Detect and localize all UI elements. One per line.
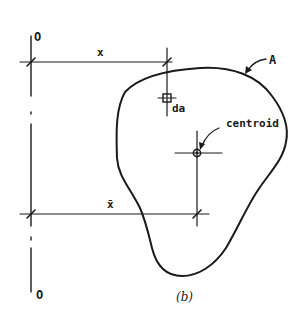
centroid-label: centroid bbox=[226, 117, 279, 130]
area-leader-arrow bbox=[248, 59, 266, 70]
area-outline bbox=[117, 68, 287, 276]
arrowhead-icon bbox=[199, 142, 205, 150]
element-label: da bbox=[172, 102, 185, 115]
dimension-line-x-bar bbox=[20, 210, 209, 218]
dimension-label-x: x bbox=[97, 46, 104, 59]
dimension-label-x-bar: x̄ bbox=[107, 198, 114, 211]
area-label: A bbox=[269, 53, 277, 67]
figure-caption: (b) bbox=[176, 290, 193, 304]
dimension-line-x bbox=[20, 58, 172, 66]
axis-label-bottom: O bbox=[36, 288, 43, 302]
centroid-leader-arrow bbox=[202, 128, 219, 146]
centroid-diagram: O O x x̄ A da centroid (b) bbox=[0, 0, 307, 321]
axis-label-top: O bbox=[34, 30, 41, 44]
